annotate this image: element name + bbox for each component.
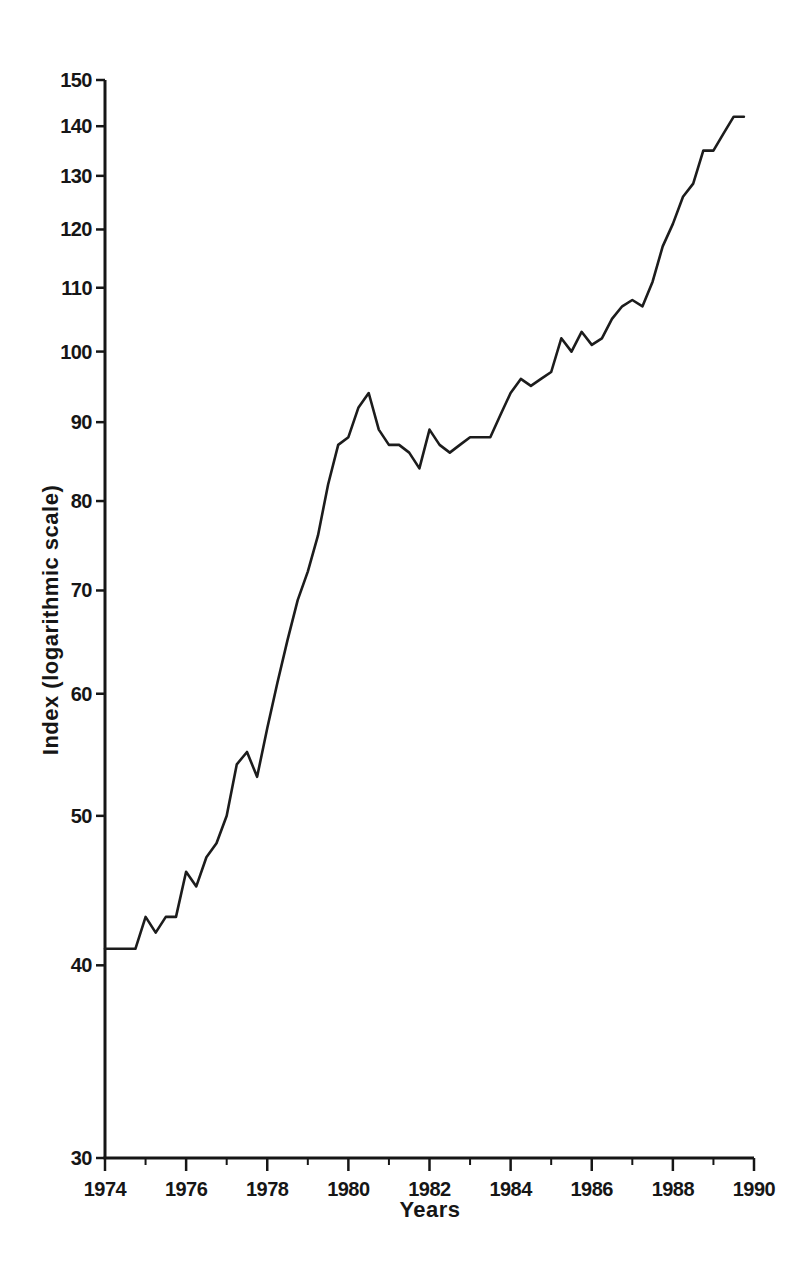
y-tick-label-30: 30 [71,1147,93,1169]
x-tick-label-1974: 1974 [84,1178,128,1200]
y-tick-label-60: 60 [71,683,93,705]
y-tick-label-90: 90 [71,411,93,433]
y-tick-label-150: 150 [60,69,92,91]
data-line-group [105,117,744,949]
y-axis: 30405060708090100110120130140150 [60,69,105,1169]
y-tick-label-120: 120 [60,218,92,240]
y-tick-label-140: 140 [60,115,92,137]
x-tick-label-1986: 1986 [571,1178,614,1200]
x-tick-label-1984: 1984 [489,1178,533,1200]
y-tick-label-80: 80 [71,490,93,512]
y-tick-label-40: 40 [71,954,93,976]
chart-canvas: 30405060708090100110120130140150 1974197… [0,0,807,1281]
x-tick-label-1988: 1988 [652,1178,695,1200]
index-data-line [105,117,744,949]
x-tick-label-1978: 1978 [246,1178,289,1200]
line-chart-figure: 30405060708090100110120130140150 1974197… [0,0,807,1281]
y-tick-label-70: 70 [71,579,93,601]
x-tick-label-1980: 1980 [327,1178,370,1200]
x-axis: 197419761978198019821984198619881990 [84,1158,776,1200]
x-tick-label-1976: 1976 [165,1178,208,1200]
y-tick-label-50: 50 [71,805,93,827]
x-tick-label-1990: 1990 [733,1178,776,1200]
y-tick-label-110: 110 [61,277,92,299]
y-axis-title: Index (logarithmic scale) [38,485,63,755]
y-tick-label-100: 100 [60,341,92,363]
y-tick-label-130: 130 [60,165,92,187]
x-axis-title: Years [399,1197,460,1222]
